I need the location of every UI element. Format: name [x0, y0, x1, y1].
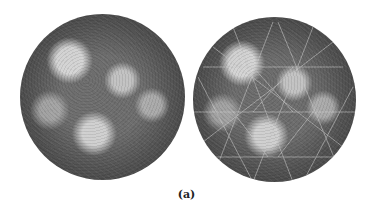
- capsid-surface-image-right-with-lattice: [193, 17, 356, 182]
- figure-caption: (a): [0, 188, 373, 201]
- icosahedral-lattice-overlay: [193, 17, 356, 182]
- capsid-surface-image-left: [20, 14, 185, 180]
